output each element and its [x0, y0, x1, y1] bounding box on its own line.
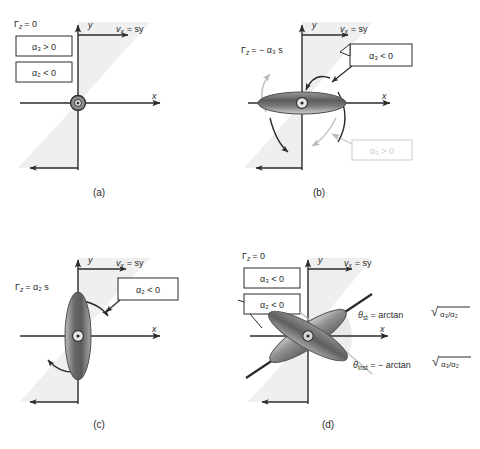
- sqrt-radicand: α₃/α₂: [441, 360, 459, 369]
- velocity-rest: = sy: [127, 258, 144, 268]
- torque-rest: = 0: [252, 251, 265, 261]
- torque-rest: = α₂ s: [25, 282, 49, 292]
- box-text: α₂ < 0: [32, 68, 56, 78]
- box-text: α₃ > 0: [370, 146, 394, 156]
- panel-caption-b: (b): [313, 187, 325, 198]
- torque-rest: = 0: [24, 19, 37, 29]
- theta-subscript: inst: [358, 364, 368, 371]
- svg-text:vx= sy: vx= sy: [116, 258, 144, 269]
- panel-caption-c: (c): [93, 419, 105, 430]
- box-text: α₃ > 0: [32, 42, 56, 52]
- svg-text:vx= sy: vx= sy: [340, 24, 368, 35]
- velocity-rest: = sy: [355, 258, 372, 268]
- torque-label-a: Γz= 0: [14, 19, 37, 30]
- out-of-plane-vector-icon: [71, 96, 86, 111]
- panel-caption-a: (a): [93, 187, 105, 198]
- sqrt-radicand: α₃/α₂: [440, 310, 458, 319]
- y-axis-label: y: [87, 255, 93, 265]
- y-axis-label: y: [87, 20, 93, 30]
- label-box-d-1: α₃ < 0: [244, 268, 300, 288]
- velocity-label: vx= sy: [116, 258, 144, 269]
- svg-text:vx= sy: vx= sy: [116, 24, 144, 35]
- out-of-plane-vector-icon: [303, 331, 313, 341]
- svg-text:Γz= 0: Γz= 0: [242, 251, 265, 262]
- panel-caption-d: (d): [322, 419, 334, 430]
- label-box-a-1: α₃ > 0: [16, 36, 72, 56]
- figure-canvas: y x vx= sy Γz= 0 α₃ > 0 α₂ < 0 (a): [0, 0, 480, 449]
- x-axis-label: x: [151, 91, 157, 101]
- torque-subscript: z: [18, 23, 23, 30]
- torque-subscript: z: [245, 49, 250, 56]
- velocity-label: vx= sy: [116, 24, 144, 35]
- velocity-label: vx= sy: [340, 24, 368, 35]
- box-text: α₃ < 0: [260, 274, 284, 284]
- x-axis-label: x: [379, 324, 385, 334]
- torque-subscript: z: [19, 286, 24, 293]
- out-of-plane-vector-icon: [297, 98, 308, 109]
- sqrt-glyph: √: [432, 354, 440, 369]
- theta-subscript: st: [363, 314, 368, 321]
- label-box-a-2: α₂ < 0: [16, 62, 72, 82]
- torque-subscript: z: [246, 255, 251, 262]
- box-text: α₂ < 0: [260, 300, 284, 310]
- velocity-label: vx= sy: [344, 258, 372, 269]
- velocity-subscript: x: [120, 28, 125, 35]
- velocity-rest: = sy: [127, 24, 144, 34]
- velocity-subscript: x: [348, 262, 353, 269]
- box-text: α₂ < 0: [136, 285, 160, 295]
- theta-expression: = arctan: [370, 310, 403, 320]
- velocity-subscript: x: [120, 262, 125, 269]
- x-axis-label: x: [151, 324, 157, 334]
- sqrt-glyph: √: [431, 304, 439, 319]
- y-axis-label: y: [317, 255, 323, 265]
- theta-expression: = − arctan: [370, 360, 411, 370]
- svg-text:Γz= 0: Γz= 0: [14, 19, 37, 30]
- velocity-rest: = sy: [351, 24, 368, 34]
- svg-text:vx= sy: vx= sy: [344, 258, 372, 269]
- x-axis-label: x: [381, 91, 387, 101]
- torque-label-d: Γz= 0: [242, 251, 265, 262]
- y-axis-label: y: [311, 20, 317, 30]
- velocity-subscript: x: [344, 28, 349, 35]
- torque-rest: = − α₃ s: [251, 45, 283, 55]
- box-text: α₃ < 0: [369, 51, 393, 61]
- out-of-plane-vector-icon: [73, 331, 84, 342]
